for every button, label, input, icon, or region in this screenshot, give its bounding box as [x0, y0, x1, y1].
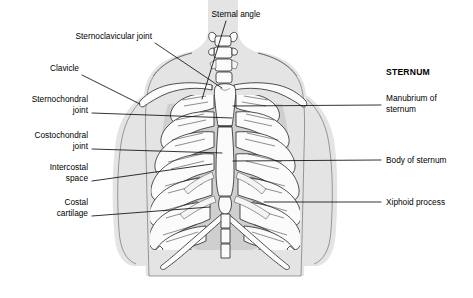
body-of-sternum-label: Body of sternum [386, 155, 447, 165]
manubrium-of-sternum-label: sternum [386, 104, 416, 114]
intercostal-space-label: space [66, 173, 89, 183]
vertebra-body-3 [215, 59, 232, 71]
costal-cartilage-label: Costal [64, 197, 88, 207]
intercostal-space-label: Intercostal [50, 162, 88, 172]
vertebra-body-4 [216, 72, 232, 83]
sternum-lower-segment-1 [221, 214, 230, 228]
xiphoid-process-label: Xiphoid process [386, 197, 445, 207]
manubrium-of-sternum-label: Manubrium of [386, 93, 437, 103]
costochondral-joint-label: Costochondral [34, 130, 88, 140]
sternochondral-joint-label: joint [72, 105, 89, 115]
sternum-lower-segment-3 [221, 244, 230, 258]
sternum-heading-label: STERNUM [386, 67, 430, 77]
anatomy-diagram-canvas: Sternoclavicular jointClavicleSternochon… [0, 0, 473, 298]
xiphoid-bone [219, 197, 232, 214]
anatomical-figure: Sternoclavicular jointClavicleSternochon… [0, 0, 473, 298]
vertebra-body-1 [215, 36, 231, 46]
costochondral-joint-label: joint [72, 141, 89, 151]
clavicle-label: Clavicle [50, 63, 79, 73]
leader-clavicle [82, 75, 140, 104]
sternal-body-bone [216, 127, 234, 196]
costal-cartilage-label: cartilage [57, 208, 89, 218]
sternal-angle-label: Sternal angle [212, 9, 261, 19]
sternum-lower-segment-2 [221, 229, 230, 243]
sternochondral-joint-label: Sternochondral [32, 94, 88, 104]
sternoclavicular-joint-label: Sternoclavicular joint [75, 31, 152, 41]
manubrium-bone [214, 84, 235, 126]
